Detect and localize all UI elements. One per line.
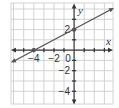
x-tick-label: 0: [65, 53, 71, 64]
x-tick-label: −2: [48, 53, 60, 64]
plotted-line: [11, 8, 114, 63]
coordinate-plane: x y −4 −2 0 2 −2 −4: [0, 0, 119, 108]
y-axis: [72, 4, 77, 105]
y-axis-label: y: [77, 4, 83, 16]
y-tick-label: −2: [59, 65, 71, 76]
point-x-intercept: [32, 48, 36, 52]
x-tick-label: −4: [28, 53, 40, 64]
x-axis: [11, 48, 113, 53]
x-axis-label: x: [105, 35, 111, 47]
y-tick-label: −4: [59, 86, 71, 97]
point-y-intercept: [72, 27, 76, 31]
